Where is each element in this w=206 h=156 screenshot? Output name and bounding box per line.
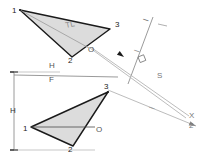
right-angle-symbol — [138, 55, 146, 63]
vertex-dot — [19, 9, 21, 11]
point-view-label-2: 2 — [189, 121, 194, 130]
h-f-fold-line — [14, 75, 118, 77]
vertex-label-3-top: 3 — [115, 20, 120, 29]
vertex-label-1-top: 1 — [12, 6, 17, 15]
vertex-label-2-top: 2 — [68, 56, 73, 65]
line-of-sight-arrowhead — [117, 51, 124, 57]
vertex-dot — [107, 91, 109, 93]
vertex-label-2-front: 2 — [68, 145, 73, 154]
height-dimension-label: H — [10, 106, 16, 115]
vertex-label-3-front: 3 — [104, 82, 109, 91]
diagram-canvas: 1 3 2 TL O 1 3 2 O H F H I S I I X 2 — [0, 0, 206, 156]
line-of-sight-label: I — [132, 49, 141, 54]
point-o-label-top: O — [88, 45, 94, 54]
fold-line-label-h: H — [49, 61, 55, 70]
front-view-triangle — [31, 92, 108, 146]
point-view-label-x: X — [189, 111, 195, 120]
descriptive-geometry-drawing: 1 3 2 TL O 1 3 2 O H F H I S I I X 2 — [0, 0, 206, 156]
auxiliary-label-s: S — [157, 71, 162, 80]
fold-line-label-f: F — [49, 75, 54, 84]
auxiliary-fold-tick — [158, 24, 167, 26]
projection-band-label: I — [147, 106, 156, 111]
point-o-label-front: O — [96, 125, 102, 134]
auxiliary-label-1: I — [141, 18, 150, 23]
vertex-label-1-front: 1 — [23, 124, 28, 133]
